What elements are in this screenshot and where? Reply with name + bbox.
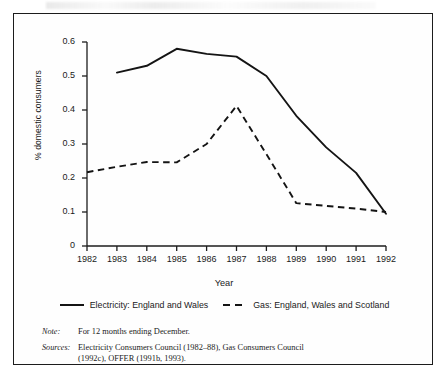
chart-svg [14,14,434,264]
y-tick-label: 0.3 [47,138,75,148]
x-tick-label: 1982 [70,254,104,264]
x-tick-label: 1984 [130,254,164,264]
figure-footnotes: Note: For 12 months ending December. Sou… [42,326,418,369]
footnote-sources-tag: Sources: [42,342,78,353]
legend-label-electricity: Electricity: England and Wales [90,300,209,310]
y-tick-label: 0.5 [47,70,75,80]
y-axis-title: % domestic consumers [33,55,43,175]
legend-label-gas: Gas: England, Wales and Scotland [253,300,389,310]
figure-frame: % domestic consumers 00.10.20.30.40.50.6… [13,13,433,365]
x-tick-label: 1992 [369,254,403,264]
x-tick-label: 1986 [190,254,224,264]
footnote-note-tag: Note: [42,326,78,337]
legend-swatch-dashed-icon [222,300,248,310]
x-tick-label: 1987 [220,254,254,264]
legend-swatch-solid-icon [59,300,85,310]
footnote-sources-line-2: (1992c), OFFER (1991b, 1993). [78,353,418,365]
footnote-note-row: Note: For 12 months ending December. [42,326,418,338]
y-tick-label: 0.4 [47,104,75,114]
x-tick-label: 1985 [160,254,194,264]
x-tick-label: 1989 [279,254,313,264]
x-tick-label: 1991 [339,254,373,264]
footnote-sources-text: Electricity Consumers Council (1982–88),… [78,342,418,365]
x-axis-title: Year [14,278,434,288]
legend-entry-gas: Gas: England, Wales and Scotland [222,300,389,310]
legend-entry-electricity: Electricity: England and Wales [59,300,209,310]
y-tick-label: 0.6 [47,36,75,46]
x-tick-label: 1988 [249,254,283,264]
chart-plot-area: % domestic consumers 00.10.20.30.40.50.6… [14,14,434,264]
footnote-sources-row: Sources: Electricity Consumers Council (… [42,342,418,365]
chart-legend: Electricity: England and Wales Gas: Engl… [14,300,434,310]
y-tick-label: 0.1 [47,206,75,216]
x-axis-ticks [87,246,386,251]
y-axis-ticks [82,42,87,246]
footnote-note-text: For 12 months ending December. [78,326,418,338]
y-tick-label: 0 [47,240,75,250]
footnote-sources-line-1: Electricity Consumers Council (1982–88),… [78,342,418,354]
x-tick-label: 1983 [100,254,134,264]
y-tick-label: 0.2 [47,172,75,182]
x-tick-label: 1990 [309,254,343,264]
scan-artifact [46,2,376,9]
